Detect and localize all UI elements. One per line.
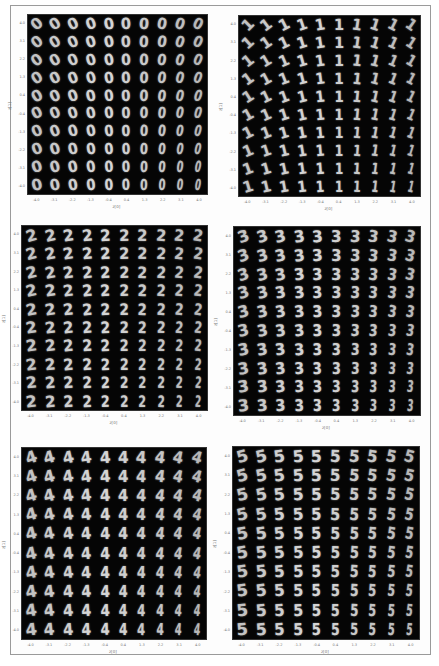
x-tick-label: 4.0 bbox=[192, 414, 206, 418]
digit-cell: 3 bbox=[385, 377, 398, 397]
digit-cell: 5 bbox=[232, 580, 253, 601]
digit-cell: 0 bbox=[137, 86, 153, 104]
digit-cell: 5 bbox=[308, 466, 326, 486]
digit-cell: 5 bbox=[328, 581, 343, 600]
digit-grid-plot: 1111111111111111111111111111111111111111… bbox=[238, 15, 421, 197]
digit-cell: 4 bbox=[135, 601, 149, 620]
y-axis-label: z[1] bbox=[212, 540, 217, 548]
digit-cell: 4 bbox=[116, 601, 130, 620]
digit-cell: 0 bbox=[155, 140, 169, 159]
digit-cell: 1 bbox=[348, 69, 365, 89]
x-tick-label: -3.1 bbox=[254, 419, 268, 423]
digit-cell: 4 bbox=[115, 543, 130, 562]
digit-cell: 1 bbox=[367, 123, 383, 143]
y-tick-label: 2.2 bbox=[224, 59, 236, 63]
digit-cell: 2 bbox=[59, 354, 77, 374]
digit-cell: 1 bbox=[311, 87, 329, 107]
digit-cell: 5 bbox=[271, 619, 289, 639]
digit-cell: 5 bbox=[382, 484, 401, 506]
x-tick-label: 1.3 bbox=[135, 643, 149, 647]
y-axis-label: z[1] bbox=[213, 318, 218, 326]
digit-cell: 4 bbox=[188, 523, 205, 544]
y-tick-label: 4.0 bbox=[218, 454, 230, 458]
digit-cell: 0 bbox=[100, 140, 117, 159]
digit-cell: 1 bbox=[293, 123, 312, 144]
digit-cell: 3 bbox=[347, 321, 363, 340]
digit-cell: 3 bbox=[385, 358, 399, 378]
digit-cell: 5 bbox=[346, 523, 363, 543]
digit-cell: 2 bbox=[135, 336, 150, 355]
digit-cell: 1 bbox=[349, 123, 364, 142]
digit-cell: 2 bbox=[188, 243, 207, 264]
digit-cell: 5 bbox=[269, 484, 289, 505]
digit-cell: 5 bbox=[384, 581, 398, 601]
digit-cell: 2 bbox=[98, 391, 113, 410]
digit-cell: 5 bbox=[364, 542, 380, 562]
digit-cell: 0 bbox=[190, 121, 206, 141]
digit-cell: 2 bbox=[171, 299, 187, 319]
x-tick-label: -1.3 bbox=[291, 643, 305, 647]
digit-cell: 4 bbox=[114, 448, 131, 467]
digit-cell: 1 bbox=[367, 159, 382, 178]
digit-cell: 3 bbox=[232, 338, 254, 360]
digit-cell: 5 bbox=[381, 445, 401, 467]
digit-cell: 2 bbox=[96, 281, 114, 300]
digit-cell: 2 bbox=[79, 391, 95, 410]
digit-cell: 5 bbox=[403, 581, 417, 602]
digit-cell: 0 bbox=[136, 68, 152, 87]
digit-cell: 3 bbox=[382, 245, 401, 266]
y-tick-label: 2.2 bbox=[7, 493, 19, 497]
y-tick-label: -3.1 bbox=[224, 168, 236, 172]
digit-cell: 3 bbox=[403, 339, 418, 359]
x-tick-label: -1.3 bbox=[83, 198, 97, 202]
digit-cell: 1 bbox=[313, 178, 329, 197]
digit-cell: 3 bbox=[384, 320, 400, 340]
y-axis-label: z[1] bbox=[218, 103, 223, 111]
y-axis-label: z[1] bbox=[7, 102, 12, 110]
x-tick-label: -2.2 bbox=[272, 643, 286, 647]
digit-cell: 4 bbox=[21, 619, 42, 640]
y-tick-label: 2.2 bbox=[219, 272, 231, 276]
digit-cell: 2 bbox=[173, 391, 185, 410]
x-tick-label: -1.3 bbox=[79, 643, 93, 647]
x-tick-label: 1.3 bbox=[348, 419, 362, 423]
digit-cell: 3 bbox=[348, 358, 362, 377]
digit-cell: 3 bbox=[400, 225, 421, 247]
digit-cell: 2 bbox=[152, 225, 170, 245]
digit-cell: 5 bbox=[383, 523, 400, 544]
digit-cell: 1 bbox=[274, 140, 294, 161]
digit-cell: 4 bbox=[95, 466, 114, 486]
digit-grid-plot: 5555555555555555555555555555555555555555… bbox=[232, 446, 420, 640]
digit-cell: 4 bbox=[97, 562, 113, 582]
digit-cell: 4 bbox=[189, 562, 204, 583]
digit-cell: 3 bbox=[367, 396, 380, 415]
digit-cell: 3 bbox=[270, 225, 292, 247]
x-tick-label: -0.4 bbox=[98, 643, 112, 647]
digit-cell: 5 bbox=[345, 485, 363, 505]
digit-cell: 5 bbox=[344, 446, 363, 467]
digit-cell: 2 bbox=[117, 392, 131, 410]
digit-cell: 2 bbox=[59, 336, 78, 356]
digit-cell: 2 bbox=[77, 262, 96, 282]
digit-cell: 2 bbox=[171, 262, 188, 282]
digit-cell: 0 bbox=[155, 158, 169, 177]
y-tick-label: -0.4 bbox=[7, 325, 19, 329]
digit-cell: 3 bbox=[404, 377, 417, 397]
digit-cell: 2 bbox=[21, 391, 41, 411]
digit-cell: 2 bbox=[172, 336, 186, 355]
digit-cell: 3 bbox=[310, 358, 326, 377]
digit-cell: 0 bbox=[118, 68, 135, 87]
digit-cell: 5 bbox=[401, 503, 419, 525]
digit-cell: 4 bbox=[40, 619, 59, 640]
digit-cell: 3 bbox=[289, 226, 309, 247]
digit-cell: 3 bbox=[384, 301, 401, 322]
digit-cell: 0 bbox=[80, 49, 101, 71]
digit-cell: 4 bbox=[59, 600, 77, 621]
digit-cell: 5 bbox=[327, 543, 343, 562]
digit-cell: 3 bbox=[329, 359, 344, 378]
digit-cell: 4 bbox=[58, 523, 78, 545]
digit-cell: 1 bbox=[404, 159, 419, 179]
digit-cell: 3 bbox=[289, 245, 309, 266]
digit-cell: 3 bbox=[252, 395, 271, 415]
digit-cell: 3 bbox=[291, 377, 308, 397]
